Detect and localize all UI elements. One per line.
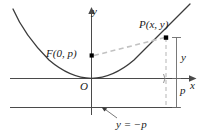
point-p-label: P(x, y) bbox=[139, 19, 168, 30]
point-p-marker bbox=[164, 35, 168, 39]
figure-canvas bbox=[0, 0, 204, 137]
parabola-figure: y x O F(0, p) P(x, y) y p y = −p bbox=[0, 0, 204, 137]
focal-radius-dashed-line bbox=[94, 38, 165, 56]
distance-y-label: y bbox=[181, 52, 186, 63]
parabola-curve bbox=[13, 4, 190, 78]
directrix-leader bbox=[102, 107, 118, 118]
origin-label: O bbox=[80, 81, 88, 92]
measure-bracket-y bbox=[172, 38, 181, 79]
focus-point-marker bbox=[90, 53, 94, 57]
x-axis-label: x bbox=[190, 80, 195, 91]
distance-p-label: p bbox=[180, 85, 186, 96]
y-axis bbox=[88, 7, 94, 115]
y-axis-label: y bbox=[92, 6, 97, 17]
focus-label: F(0, p) bbox=[46, 48, 77, 59]
directrix-label: y = −p bbox=[116, 119, 147, 130]
